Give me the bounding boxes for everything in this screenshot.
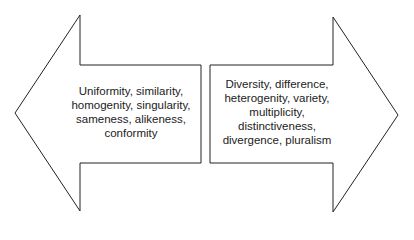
right-label-line: divergence, pluralism — [212, 133, 342, 147]
right-arrow-label: Diversity, difference, heterogenity, var… — [212, 77, 342, 147]
right-label-line: heterogenity, variety, — [212, 91, 342, 105]
left-label-line: conformity — [56, 126, 206, 140]
left-label-line: sameness, alikeness, — [56, 112, 206, 126]
right-label-line: multiplicity, — [212, 105, 342, 119]
left-label-line: Uniformity, similarity, — [56, 84, 206, 98]
left-label-line: homogenity, singularity, — [56, 98, 206, 112]
left-arrow-label: Uniformity, similarity, homogenity, sing… — [56, 84, 206, 140]
right-label-line: distinctiveness, — [212, 119, 342, 133]
right-label-line: Diversity, difference, — [212, 77, 342, 91]
